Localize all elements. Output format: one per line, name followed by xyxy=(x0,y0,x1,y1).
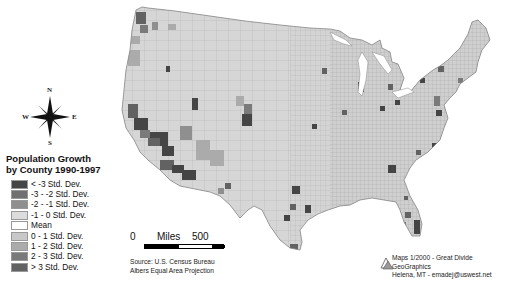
legend-item: -2 - -1 Std. Dev. xyxy=(11,200,89,210)
legend-label: 1 - 2 Std. Dev. xyxy=(31,242,83,251)
legend-swatch xyxy=(11,190,28,199)
legend-title-line1: Population Growth xyxy=(6,153,126,164)
compass-east-label: E xyxy=(72,113,77,121)
legend-item: < -3 Std. Dev. xyxy=(11,179,89,189)
credit-line1: Maps 1/2000 - Great Divide GeoGraphics xyxy=(392,254,509,271)
scale-end-label: 500 xyxy=(192,231,209,242)
compass-rose: N S W E xyxy=(22,86,78,148)
compass-south-label: S xyxy=(48,139,52,147)
scale-bar: 0 Miles 500 xyxy=(130,231,212,249)
legend-swatch xyxy=(11,242,28,251)
legend-label: < -3 Std. Dev. xyxy=(31,180,81,189)
compass-west-label: W xyxy=(22,113,29,121)
legend-swatch xyxy=(11,252,28,261)
legend-label: 0 - 1 Std. Dev. xyxy=(31,232,83,241)
legend-item: -1 - 0 Std. Dev. xyxy=(11,210,89,220)
legend-swatch xyxy=(11,232,28,241)
legend-item: 2 - 3 Std. Dev. xyxy=(11,252,89,262)
legend-item: > 3 Std. Dev. xyxy=(11,262,89,272)
source-note: Source: U.S. Census Bureau Albers Equal … xyxy=(130,258,215,275)
legend-label: -2 - -1 Std. Dev. xyxy=(31,200,89,209)
scale-unit-label: Miles xyxy=(157,231,180,242)
legend-item: -3 - -2 Std. Dev. xyxy=(11,189,89,199)
legend-label: -1 - 0 Std. Dev. xyxy=(31,211,86,220)
legend-swatch xyxy=(11,200,28,209)
legend-title: Population Growth by County 1990-1997 xyxy=(6,153,126,175)
compass-north-label: N xyxy=(47,86,52,94)
scale-start-label: 0 xyxy=(130,231,136,242)
projection-line: Albers Equal Area Projection xyxy=(130,267,215,276)
scale-bar-graphic xyxy=(144,244,224,249)
legend: < -3 Std. Dev. -3 - -2 Std. Dev. -2 - -1… xyxy=(11,179,89,273)
legend-swatch xyxy=(11,211,28,220)
map-credit: Maps 1/2000 - Great Divide GeoGraphics H… xyxy=(392,254,509,280)
legend-item: Mean xyxy=(11,221,89,231)
legend-item: 0 - 1 Std. Dev. xyxy=(11,231,89,241)
legend-swatch xyxy=(11,180,28,189)
legend-swatch xyxy=(11,221,28,230)
source-line: Source: U.S. Census Bureau xyxy=(130,258,215,267)
legend-swatch xyxy=(11,263,28,272)
legend-label: Mean xyxy=(31,221,52,230)
credit-line2: Helena, MT - emadej@uswest.net xyxy=(392,271,509,280)
legend-label: > 3 Std. Dev. xyxy=(31,263,79,272)
legend-title-line2: by County 1990-1997 xyxy=(6,164,126,175)
legend-label: 2 - 3 Std. Dev. xyxy=(31,252,83,261)
legend-label: -3 - -2 Std. Dev. xyxy=(31,190,89,199)
legend-item: 1 - 2 Std. Dev. xyxy=(11,241,89,251)
